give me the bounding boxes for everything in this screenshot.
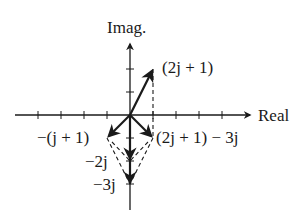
vector-neg-j-plus-1: [109, 115, 130, 136]
label-neg-3j: −3j: [93, 175, 116, 194]
complex-plane-diagram: Imag. Real (2j + 1) −(j + 1) (2j + 1) − …: [0, 0, 303, 219]
vector-2j-plus-1: [130, 71, 152, 115]
label-2j-plus-1-minus-3j: (2j + 1) − 3j: [156, 128, 238, 147]
label-neg-2j: −2j: [85, 152, 108, 171]
imag-axis-label: Imag.: [107, 18, 146, 37]
real-axis-label: Real: [258, 106, 289, 125]
label-neg-j-plus-1: −(j + 1): [37, 128, 89, 147]
vector-2j-plus-1-minus-3j: [130, 115, 151, 136]
label-2j-plus-1: (2j + 1): [162, 58, 213, 77]
